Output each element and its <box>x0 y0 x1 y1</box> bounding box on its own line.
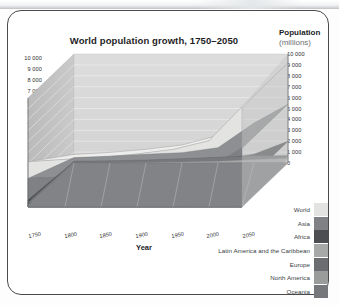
legend-item[interactable]: Africa <box>128 230 328 244</box>
page-top-edge-highlight <box>196 0 339 9</box>
legend-item[interactable]: Latin America and the Caribbean <box>128 244 328 258</box>
legend-item-label: Latin America and the Caribbean <box>218 247 314 254</box>
chart-card: World population growth, 1750–2050 Popul… <box>7 10 329 295</box>
legend-item-label: North America <box>270 274 314 281</box>
legend-item-label: Asia <box>298 220 314 227</box>
legend-item-swatch <box>314 203 328 216</box>
legend-item[interactable]: North America <box>128 271 328 285</box>
legend-item-label: Europe <box>290 261 314 268</box>
legend-item-swatch <box>314 271 328 284</box>
legend-item-swatch <box>314 285 328 298</box>
y-axis-subheader: (millions) <box>279 38 339 48</box>
chart-legend: WorldAsiaAfricaLatin America and the Car… <box>128 203 328 298</box>
legend-item-swatch <box>314 244 328 257</box>
legend-item[interactable]: World <box>128 203 328 217</box>
legend-item-label: Oceania <box>287 288 314 295</box>
x-axis-tick: 1750 <box>28 231 41 239</box>
legend-item-label: Africa <box>294 233 314 240</box>
chart-title: World population growth, 1750–2050 <box>54 35 254 46</box>
x-axis-tick: 1800 <box>64 231 77 239</box>
legend-item-swatch <box>314 258 328 271</box>
legend-item-label: World <box>294 206 314 213</box>
legend-item[interactable]: Europe <box>128 257 328 271</box>
screenshot-root: World population growth, 1750–2050 Popul… <box>0 0 339 305</box>
legend-item-swatch <box>314 230 328 243</box>
legend-item[interactable]: Oceania <box>128 285 328 299</box>
y-axis-header: Population <box>279 28 339 38</box>
legend-item[interactable]: Asia <box>128 217 328 231</box>
x-axis-tick: 1850 <box>99 231 112 239</box>
legend-item-swatch <box>314 217 328 230</box>
